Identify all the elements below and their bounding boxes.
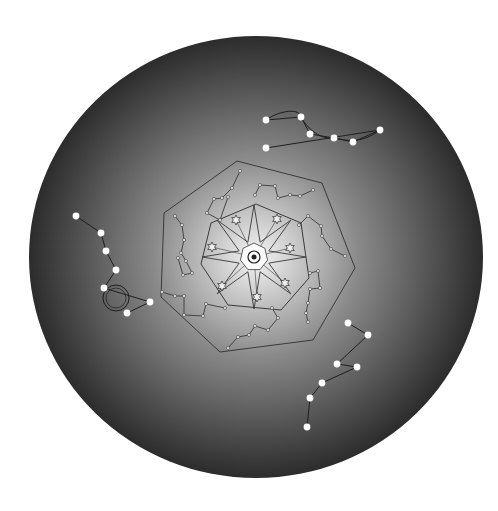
dipper-star-node [238,169,241,172]
dipper-star-node [180,223,183,226]
dipper-star-node [276,316,279,319]
bright-star [263,117,270,124]
dipper-star-node [306,301,309,304]
dipper-star-node [304,311,307,314]
dipper-star-node [329,247,332,250]
bright-star [147,299,154,306]
dipper-star-node [318,286,321,289]
dipper-star-node [182,238,185,241]
bright-star [354,364,361,371]
dipper-star-node [273,184,276,187]
dipper-star-node [306,320,309,323]
dipper-star-node [298,194,301,197]
dipper-star-node [173,214,176,217]
dipper-star-node [308,271,311,274]
bright-star [331,135,338,142]
dipper-star-node [181,273,184,276]
bright-star [73,213,80,220]
bright-star [304,424,311,431]
dipper-star-node [226,346,229,349]
bright-star [345,320,352,327]
dipper-star-node [306,214,309,217]
dipper-star-node [311,188,314,191]
dipper-star-node [253,324,256,327]
dipper-star-node [308,287,311,290]
hub-dot [252,255,257,260]
dipper-star-node [184,259,187,262]
dipper-star-node [320,234,323,237]
dipper-star-node [270,306,273,309]
dipper-star-node [226,195,229,198]
bright-star [263,145,270,152]
dipper-star-node [204,302,207,305]
bright-star [101,285,108,292]
bright-star [113,267,120,274]
bright-star [377,127,384,134]
dipper-star-node [212,197,215,200]
dipper-star-node [173,294,176,297]
dipper-star-node [319,224,322,227]
dipper-star-node [297,223,300,226]
bright-star [319,380,326,387]
dipper-star-node [190,271,193,274]
bright-star [365,332,372,339]
dipper-star-node [253,193,256,196]
dipper-star-node [220,196,223,199]
dipper-star-node [276,196,279,199]
bright-star [334,361,341,368]
bright-star [98,230,105,237]
dipper-star-node [201,314,204,317]
dipper-star-node [218,218,221,221]
bright-star [350,139,357,146]
dipper-star-node [236,335,239,338]
dipper-star-node [247,333,250,336]
dipper-star-node [223,306,226,309]
dipper-star-node [230,186,233,189]
dipper-star-node [288,193,291,196]
dipper-star-node [179,251,182,254]
dipper-star-node [205,211,208,214]
dipper-star-node [182,313,185,316]
dipper-star-node [266,328,269,331]
dipper-star-node [176,256,179,259]
bright-star [103,248,110,255]
dipper-star-node [182,294,185,297]
bright-star [307,131,314,138]
dipper-star-node [316,269,319,272]
dipper-star-node [343,254,346,257]
celestial-disk-svg [0,0,498,511]
star-chart-illustration [0,0,498,511]
dipper-star-node [258,183,261,186]
bright-star [298,114,305,121]
dipper-star-node [160,290,163,293]
bright-star [124,310,131,317]
bright-star [307,395,314,402]
